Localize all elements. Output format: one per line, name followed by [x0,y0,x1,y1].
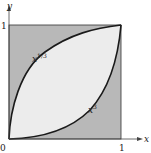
diagram-canvas: y 1 0 1 x x1/3 x3 [0,0,151,153]
x-axis-arrow-icon [137,137,143,141]
y-axis-label: y [6,1,13,11]
x-tick-label-1: 1 [119,143,125,153]
origin-label: 0 [0,143,6,153]
x-axis-label: x [144,134,149,144]
y-tick-label-1: 1 [1,21,7,31]
